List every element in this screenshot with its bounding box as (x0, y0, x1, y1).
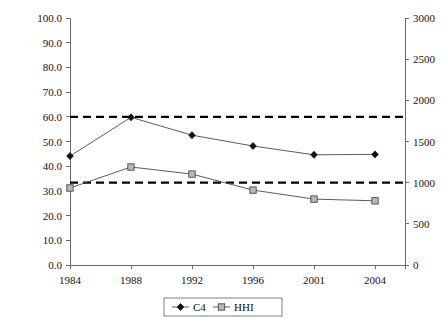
right-tick-label-3000: 3000 (413, 12, 436, 24)
series-line-c4 (70, 117, 375, 156)
series-line-hhi (70, 167, 375, 201)
right-tick-label-1000: 1000 (413, 177, 436, 189)
left-axis-ticks (66, 18, 70, 265)
x-axis-ticks (70, 265, 405, 269)
left-tick-label-80: 80.0 (43, 61, 63, 73)
legend-label-c4: C4 (193, 301, 206, 313)
left-tick-label-10: 10.0 (43, 234, 63, 246)
x-tick-label-1996: 1996 (242, 274, 265, 286)
series-markers-c4 (67, 114, 379, 160)
x-tick-label-2004: 2004 (364, 274, 387, 286)
left-tick-label-90: 90.0 (43, 37, 63, 49)
right-axis-ticks (405, 18, 409, 265)
left-tick-label-40: 40.0 (43, 160, 63, 172)
chart-container: 100.0 90.0 80.0 70.0 60.0 50.0 40.0 30.0… (0, 0, 448, 323)
line-chart: 100.0 90.0 80.0 70.0 60.0 50.0 40.0 30.0… (0, 0, 448, 323)
left-tick-label-60: 60.0 (43, 111, 63, 123)
left-tick-label-30: 30.0 (43, 185, 63, 197)
x-tick-label-1984: 1984 (59, 274, 82, 286)
chart-legend: C4 HHI (164, 298, 282, 316)
legend-label-hhi: HHI (234, 301, 254, 313)
left-tick-label-100: 100.0 (37, 12, 62, 24)
left-tick-label-0: 0.0 (48, 259, 62, 271)
left-tick-label-50: 50.0 (43, 136, 63, 148)
right-tick-label-500: 500 (413, 218, 430, 230)
right-tick-label-1500: 1500 (413, 136, 436, 148)
right-tick-label-2500: 2500 (413, 53, 436, 65)
left-tick-label-20: 20.0 (43, 210, 63, 222)
x-tick-label-1988: 1988 (120, 274, 143, 286)
right-tick-label-2000: 2000 (413, 94, 436, 106)
x-tick-label-1992: 1992 (181, 274, 203, 286)
series-markers-hhi (67, 164, 378, 204)
right-tick-label-0: 0 (413, 259, 419, 271)
legend-marker-hhi-icon (218, 304, 224, 310)
left-tick-label-70: 70.0 (43, 86, 63, 98)
x-tick-label-2001: 2001 (303, 274, 325, 286)
